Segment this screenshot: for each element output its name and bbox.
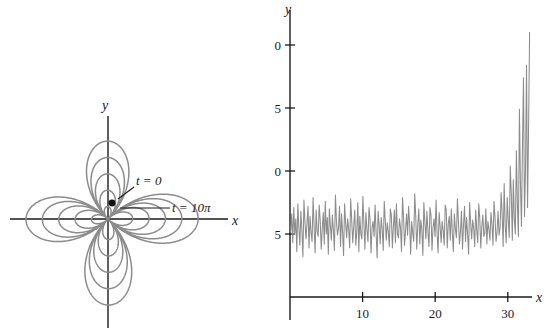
figure-container: x y t = 0 t = 10π x y 1020305101520 <box>0 0 548 336</box>
t-end-annotation-label: t = 10π <box>172 200 211 215</box>
series-y-tick-label: 5 <box>275 227 282 242</box>
series-y-tick-label: 20 <box>274 38 281 53</box>
x-axis-label: x <box>231 213 239 228</box>
butterfly-curve-panel: x y t = 0 t = 10π <box>0 0 274 336</box>
t-zero-annotation-label: t = 0 <box>136 173 162 188</box>
butterfly-curve-svg: x y t = 0 t = 10π <box>0 0 274 336</box>
series-y-tick-label: 15 <box>274 101 281 116</box>
butterfly-curve-path <box>26 141 198 305</box>
noisy-series-panel: x y 1020305101520 <box>274 0 548 336</box>
series-tick-group <box>285 45 508 302</box>
butterfly-curve-paths <box>26 141 198 305</box>
series-tick-label-group: 1020305101520 <box>274 38 514 321</box>
series-x-axis-label: x <box>535 290 543 305</box>
series-y-axis-label: y <box>283 2 292 17</box>
series-x-tick-label: 20 <box>429 306 442 321</box>
y-axis-label: y <box>100 98 109 113</box>
noisy-series-svg: x y 1020305101520 <box>274 0 548 336</box>
series-data-line <box>291 32 530 258</box>
series-x-tick-label: 30 <box>501 306 514 321</box>
series-x-tick-label: 10 <box>356 306 369 321</box>
t-zero-marker-dot <box>109 200 116 207</box>
series-y-tick-label: 10 <box>274 164 281 179</box>
